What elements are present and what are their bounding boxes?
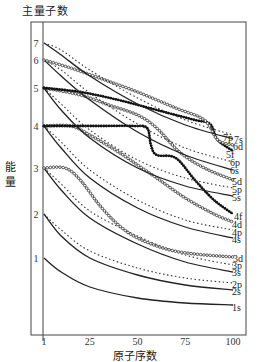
level-label-6: 6 <box>34 55 39 66</box>
curve-4p <box>44 126 233 230</box>
level-label-1: 1 <box>34 253 39 264</box>
level-label-2: 2 <box>34 209 39 220</box>
level-label-7: 7 <box>34 38 39 49</box>
curve-1s <box>44 258 233 305</box>
orbital-label-2s: 2s <box>232 286 241 297</box>
x-tick-1: 1 <box>42 336 47 347</box>
x-tick-75: 75 <box>180 336 190 347</box>
level-label-3: 3 <box>34 163 39 174</box>
orbital-labels: 7p7s6d5f6p6s5d5p5s4f4d4p4s3d3p3s2p2s1s <box>223 132 243 313</box>
energy-level-chart: 1234567 7p7s6d5f6p6s5d5p5s4f4d4p4s3d3p3s… <box>0 0 261 362</box>
orbital-label-7p: 7p <box>223 132 233 143</box>
x-tick-50: 50 <box>133 336 143 347</box>
curve-2p <box>44 214 233 283</box>
x-tick-25: 25 <box>85 336 95 347</box>
level-label-5: 5 <box>34 83 39 94</box>
orbital-label-1s: 1s <box>232 302 241 313</box>
level-label-4: 4 <box>34 121 39 132</box>
curve-4s <box>44 126 233 238</box>
curve-6p <box>44 60 233 162</box>
orbital-label-6d: 6d <box>233 141 243 152</box>
orbital-label-4s: 4s <box>232 234 241 245</box>
level-labels: 1234567 <box>34 38 39 264</box>
orbital-label-3s: 3s <box>232 267 241 278</box>
x-tick-labels: 1255075100 <box>42 336 241 347</box>
orbital-label-5s: 5s <box>232 192 241 203</box>
curve-3p <box>44 168 233 265</box>
x-tick-100: 100 <box>226 336 241 347</box>
orbital-label-6s: 6s <box>230 165 239 176</box>
orbital-curves <box>43 43 234 305</box>
